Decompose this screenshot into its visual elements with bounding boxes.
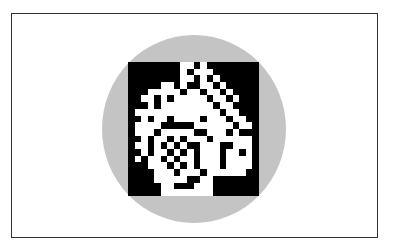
pixel	[252, 149, 259, 156]
pixel	[252, 129, 259, 136]
pixel	[252, 176, 259, 183]
pixel	[252, 102, 259, 109]
pixel	[252, 136, 259, 143]
pixel	[252, 89, 259, 96]
pixel	[252, 169, 259, 176]
pixel	[252, 189, 259, 196]
pixel	[252, 109, 259, 116]
pixel	[252, 156, 259, 163]
pixel	[252, 183, 259, 190]
pixel	[252, 95, 259, 102]
pixel	[252, 116, 259, 123]
pixel	[252, 62, 259, 69]
pixel	[252, 122, 259, 129]
pixel	[252, 142, 259, 149]
pixel	[252, 82, 259, 89]
pixel	[252, 69, 259, 76]
pixel-art-spiral-icon	[128, 62, 259, 196]
pixel	[252, 162, 259, 169]
pixel	[252, 75, 259, 82]
